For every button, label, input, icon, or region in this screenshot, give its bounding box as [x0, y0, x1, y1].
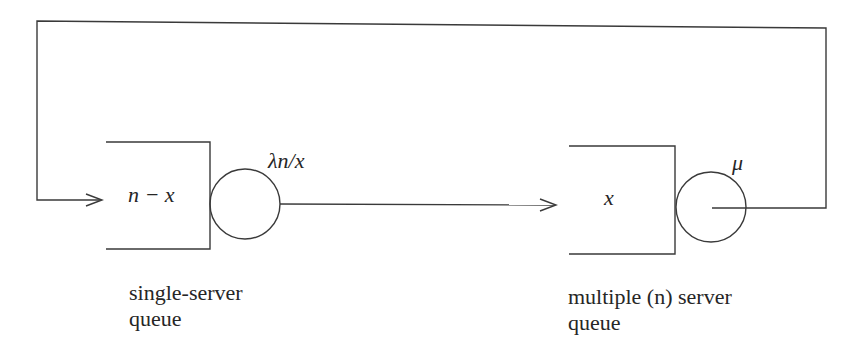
multi-server-queue-label: x [604, 185, 614, 210]
single-server-caption-line2: queue [129, 306, 182, 331]
multi-server-circle [676, 172, 746, 242]
multi-server-caption-line2: queue [568, 310, 621, 335]
feedback-loop-line [37, 21, 826, 208]
transfer-line [280, 204, 555, 205]
single-server-queue-label: n − x [128, 182, 175, 207]
multi-server-rate-label: μ [732, 150, 743, 175]
multi-server-caption-line1: multiple (n) server [568, 284, 732, 309]
single-server-caption-line1: single-server [129, 280, 243, 305]
single-server-circle [210, 169, 280, 239]
single-server-rate-label: λn/x [268, 148, 304, 173]
multi-server-queue-box [569, 146, 675, 254]
